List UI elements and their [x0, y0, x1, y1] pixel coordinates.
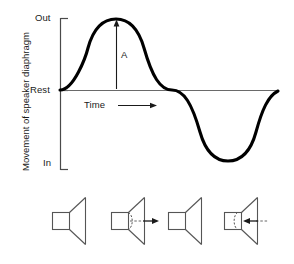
y-tick-label-rest: Rest [30, 84, 50, 95]
speaker-wave-figure: Movement of speaker diaphragm Out Rest I… [0, 0, 294, 264]
y-tick-label-out: Out [35, 12, 51, 23]
x-axis-label-time: Time [84, 99, 105, 110]
amplitude-label: A [121, 49, 127, 60]
y-tick-label-in: In [43, 157, 51, 168]
y-axis-title: Movement of speaker diaphragm [20, 17, 31, 187]
figure-text-layer: Movement of speaker diaphragm Out Rest I… [0, 0, 294, 264]
